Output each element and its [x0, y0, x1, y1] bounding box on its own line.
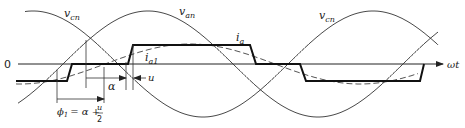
- u-label: u: [148, 72, 154, 83]
- origin-label: 0: [4, 58, 11, 71]
- omega-t-label: ωt: [447, 59, 460, 70]
- alpha-label: α: [108, 80, 116, 93]
- i-a-label: ia: [236, 31, 245, 46]
- phi1-formula-denominator: 2: [97, 115, 102, 124]
- phi1-formula: ϕ1= α +: [57, 106, 100, 119]
- v-cn-left-label: vcn: [64, 7, 80, 22]
- phi1-formula-numerator: u: [97, 103, 102, 112]
- i-a1-label: ia1: [145, 51, 158, 66]
- v-an-label: van: [179, 5, 195, 20]
- v-cn-right-label: vcn: [319, 9, 335, 24]
- waveform-diagram: 0 ωt vcn van vcn ia ia1 α u ϕ1= α + u 2: [0, 0, 465, 128]
